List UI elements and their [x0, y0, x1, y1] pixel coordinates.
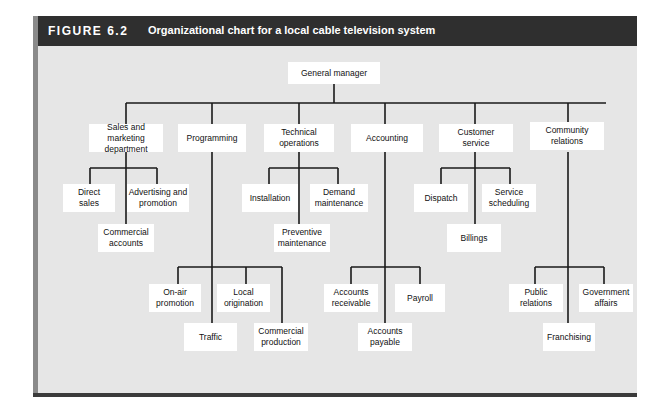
- node-advertising-promotion: Advertising and promotion: [127, 184, 189, 212]
- node-onair-promotion: On-air promotion: [149, 284, 201, 312]
- bottom-rule: [33, 393, 637, 397]
- node-accounting: Accounting: [351, 124, 423, 152]
- node-general-manager: General manager: [288, 62, 380, 84]
- node-service-scheduling: Service scheduling: [482, 184, 536, 212]
- node-public-relations: Public relations: [509, 284, 563, 312]
- node-accounts-payable: Accounts payable: [358, 323, 412, 351]
- node-demand-maintenance: Demand maintenance: [310, 184, 368, 212]
- node-preventive-maintenance: Preventive maintenance: [274, 224, 330, 252]
- node-sales-marketing: Sales and marketing department: [89, 124, 163, 152]
- node-customer-service: Customer service: [439, 124, 513, 152]
- figure-panel: FIGURE 6.2 Organizational chart for a lo…: [33, 16, 637, 397]
- node-direct-sales: Direct sales: [63, 184, 115, 212]
- node-billings: Billings: [447, 224, 501, 252]
- node-commercial-accounts: Commercial accounts: [98, 224, 154, 252]
- node-franchising: Franchising: [543, 323, 595, 351]
- node-accounts-receivable: Accounts receivable: [324, 284, 378, 312]
- node-programming: Programming: [178, 124, 246, 152]
- node-traffic: Traffic: [184, 323, 237, 351]
- node-local-origination: Local origination: [217, 284, 270, 312]
- node-community-relations: Community relations: [530, 122, 604, 150]
- node-payroll: Payroll: [395, 284, 445, 312]
- node-installation: Installation: [242, 184, 298, 212]
- node-commercial-production: Commercial production: [254, 323, 308, 351]
- node-government-affairs: Government affairs: [579, 284, 633, 312]
- node-technical-operations: Technical operations: [264, 124, 334, 152]
- node-dispatch: Dispatch: [414, 184, 468, 212]
